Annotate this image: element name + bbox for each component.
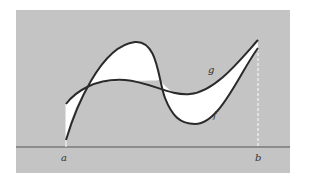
area-between-curves-diagram: g f a b <box>0 0 319 183</box>
region-right <box>160 40 258 124</box>
label-a: a <box>61 152 67 163</box>
label-g: g <box>208 64 214 75</box>
label-b: b <box>255 152 261 163</box>
